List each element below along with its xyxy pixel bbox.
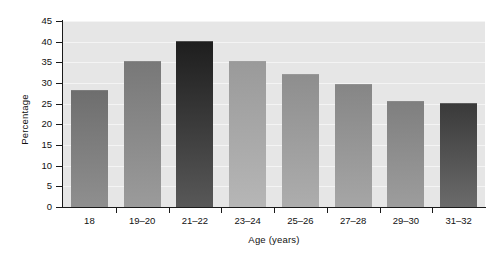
plot-area bbox=[63, 21, 485, 207]
x-tick-label: 31–32 bbox=[432, 216, 485, 226]
x-tick-label: 23–24 bbox=[221, 216, 274, 226]
x-tick-mark bbox=[221, 208, 222, 213]
y-tick-mark bbox=[56, 145, 62, 146]
y-tick-mark bbox=[56, 21, 62, 22]
bar bbox=[387, 101, 424, 207]
y-axis-line bbox=[62, 20, 63, 208]
bar bbox=[282, 74, 319, 207]
x-tick-mark bbox=[274, 208, 275, 213]
y-tick-mark bbox=[56, 83, 62, 84]
y-tick-label: 25 bbox=[14, 99, 52, 109]
bar bbox=[229, 61, 266, 207]
gridline bbox=[63, 21, 485, 22]
bar bbox=[440, 103, 477, 207]
y-tick-label: 40 bbox=[14, 37, 52, 47]
x-tick-mark bbox=[432, 208, 433, 213]
x-axis-title: Age (years) bbox=[63, 234, 485, 245]
x-tick-label: 21–22 bbox=[169, 216, 222, 226]
bar bbox=[335, 84, 372, 207]
y-tick-mark bbox=[56, 166, 62, 167]
bar-chart: Percentage 051015202530354045 1819–2021–… bbox=[0, 0, 501, 256]
gridline bbox=[63, 42, 485, 43]
y-tick-label: 30 bbox=[14, 78, 52, 88]
x-tick-mark bbox=[169, 208, 170, 213]
y-tick-mark bbox=[56, 186, 62, 187]
bar bbox=[176, 41, 213, 207]
x-tick-label: 27–28 bbox=[327, 216, 380, 226]
y-tick-label: 35 bbox=[14, 57, 52, 67]
y-tick-label: 10 bbox=[14, 161, 52, 171]
x-tick-mark bbox=[116, 208, 117, 213]
x-tick-label: 19–20 bbox=[116, 216, 169, 226]
x-tick-mark bbox=[327, 208, 328, 213]
y-tick-label: 20 bbox=[14, 119, 52, 129]
x-tick-mark bbox=[380, 208, 381, 213]
y-tick-label: 15 bbox=[14, 140, 52, 150]
y-tick-label: 45 bbox=[14, 16, 52, 26]
y-tick-mark bbox=[56, 207, 62, 208]
y-tick-mark bbox=[56, 62, 62, 63]
x-tick-label: 25–26 bbox=[274, 216, 327, 226]
y-tick-mark bbox=[56, 104, 62, 105]
y-tick-mark bbox=[56, 42, 62, 43]
bar bbox=[124, 61, 161, 207]
bar bbox=[71, 90, 108, 207]
y-tick-mark bbox=[56, 124, 62, 125]
y-tick-label: 5 bbox=[14, 181, 52, 191]
x-tick-label: 29–30 bbox=[380, 216, 433, 226]
x-tick-label: 18 bbox=[63, 216, 116, 226]
y-tick-label: 0 bbox=[14, 202, 52, 212]
